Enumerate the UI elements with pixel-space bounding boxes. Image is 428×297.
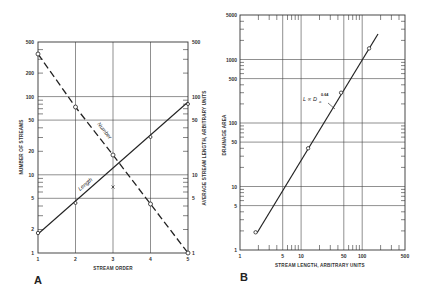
chart-a: Number Length 1 2 5 10 20 50 100 200 500… xyxy=(19,39,207,286)
chart-a-y-right-axis-title: AVERAGE STREAM LENGTH, ARBITRARY UNITS xyxy=(202,90,207,205)
figure: Number Length 1 2 5 10 20 50 100 200 500… xyxy=(0,0,428,297)
svg-text:5000: 5000 xyxy=(226,12,237,18)
svg-text:5: 5 xyxy=(234,203,237,209)
svg-text:100: 100 xyxy=(26,94,35,100)
panel-label-b: B xyxy=(240,271,248,283)
series-regression-line xyxy=(257,34,378,233)
chart-a-x-labels: 1 2 3 4 5 xyxy=(37,256,190,262)
svg-text:100: 100 xyxy=(192,94,201,100)
chart-a-right-ticks xyxy=(183,50,188,230)
svg-text:50: 50 xyxy=(231,139,237,145)
chart-b-grid xyxy=(240,15,405,250)
svg-text:5: 5 xyxy=(31,195,34,201)
equation-superscript: 0.64 xyxy=(321,93,329,97)
equation-text: L ∝ D xyxy=(303,96,317,102)
svg-text:10: 10 xyxy=(298,253,304,259)
svg-text:5: 5 xyxy=(281,253,284,259)
svg-text:500: 500 xyxy=(192,39,201,45)
chart-b-frame xyxy=(240,15,405,250)
chart-a-left-ticks xyxy=(38,50,43,230)
svg-text:500: 500 xyxy=(229,76,238,82)
svg-text:2: 2 xyxy=(74,256,77,262)
svg-text:100: 100 xyxy=(229,120,238,126)
chart-a-y-axis-title: NUMBER OF STREAMS xyxy=(19,120,24,175)
svg-text:200: 200 xyxy=(26,70,35,76)
svg-text:20: 20 xyxy=(28,148,34,154)
panel-label-a: A xyxy=(34,274,42,286)
svg-text:1000: 1000 xyxy=(226,57,237,63)
svg-text:50: 50 xyxy=(341,253,347,259)
svg-text:5: 5 xyxy=(187,256,190,262)
number-label: Number xyxy=(96,121,113,141)
equation-subscript: a xyxy=(319,99,322,104)
svg-text:10: 10 xyxy=(231,184,237,190)
svg-text:1: 1 xyxy=(239,253,242,259)
chart-a-y-right-labels: 1 5 10 50 100 500 xyxy=(192,39,201,256)
svg-text:500: 500 xyxy=(26,39,35,45)
svg-text:1: 1 xyxy=(31,250,34,256)
svg-text:100: 100 xyxy=(358,253,367,259)
svg-text:10: 10 xyxy=(192,172,198,178)
svg-text:1: 1 xyxy=(234,247,237,253)
chart-a-x-axis-title: STREAM ORDER xyxy=(93,266,133,271)
svg-text:2: 2 xyxy=(31,226,34,232)
svg-text:10: 10 xyxy=(28,172,34,178)
svg-text:3: 3 xyxy=(112,256,115,262)
chart-b-x-ticks xyxy=(258,15,399,250)
chart-a-grid xyxy=(38,42,188,253)
svg-text:1: 1 xyxy=(37,256,40,262)
equation-annotation: L ∝ D a 0.64 xyxy=(303,93,335,109)
svg-text:500: 500 xyxy=(401,253,410,259)
svg-text:50: 50 xyxy=(192,117,198,123)
svg-text:4: 4 xyxy=(149,256,152,262)
chart-b-x-labels: 1 5 10 50 100 500 xyxy=(239,253,410,259)
chart-b-x-axis-title: STREAM LENGTH, ARBITRARY UNITS xyxy=(275,263,365,268)
svg-text:50: 50 xyxy=(28,117,34,123)
chart-b: L ∝ D a 0.64 1 5 10 50 100 500 1000 5000… xyxy=(222,12,409,283)
length-label: Length xyxy=(77,176,94,191)
svg-text:5: 5 xyxy=(192,195,195,201)
chart-b-y-axis-title: DRAINAGE AREA xyxy=(222,114,227,156)
chart-b-y-labels: 1 5 10 50 100 500 1000 5000 xyxy=(226,12,237,253)
chart-a-y-left-labels: 1 2 5 10 20 50 100 200 500 xyxy=(26,39,35,256)
svg-text:1: 1 xyxy=(192,250,195,256)
